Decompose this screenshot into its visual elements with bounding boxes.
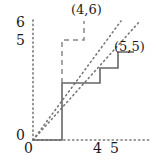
annotation-point-5-5: (5,5) [114,40,145,53]
y-axis-tick-label-6: 6 [16,15,25,29]
x-axis-tick-label-0: 0 [24,141,33,155]
dashed-extension-path [62,21,84,83]
x-axis-tick-label-4: 4 [93,141,102,155]
x-axis-tick-label-5: 5 [110,141,119,155]
annotation-point-4-6: (4,6) [71,3,102,16]
upper-diagonal-line [33,21,121,140]
step-function-figure: 6 5 0 0 4 5 (4,6) (5,5) [0,0,157,162]
step-function-path [33,52,134,140]
y-axis-tick-label-5: 5 [16,33,25,47]
